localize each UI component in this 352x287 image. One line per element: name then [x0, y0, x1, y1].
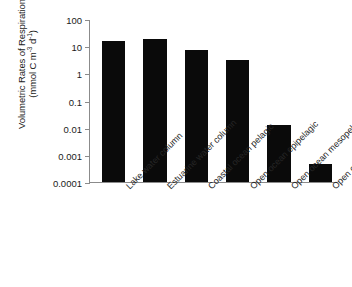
- y-tick-label: 100: [66, 15, 82, 26]
- respiration-bar-chart: Volumetric Rates of Respiration (mmol C …: [0, 0, 352, 287]
- y-tick-mark: [85, 102, 90, 103]
- bar: [102, 41, 125, 182]
- y-axis-units-exponent-day: -1: [26, 33, 33, 39]
- y-axis-units-prefix: (mmol C m: [27, 52, 38, 98]
- y-axis-title-line2: (mmol C m-3 d-1): [28, 30, 39, 98]
- plot-area: 1001010.10.010.0010.0001: [89, 20, 337, 183]
- y-axis-title: Volumetric Rates of Respiration (mmol C …: [11, 0, 45, 154]
- x-tick-label: Estuarine water column: [165, 184, 172, 191]
- y-tick-label: 0.1: [69, 96, 82, 107]
- y-tick-mark: [85, 47, 90, 48]
- x-tick-label: Lake water column: [124, 184, 131, 191]
- y-tick-label: 10: [71, 42, 82, 53]
- y-tick-label: 0.01: [64, 123, 83, 134]
- y-tick-label: 0.001: [58, 150, 82, 161]
- x-tick-label: Open ocean mesopelagic: [289, 184, 296, 191]
- y-tick-mark: [85, 74, 90, 75]
- y-axis-units-mid: d: [27, 39, 38, 47]
- x-tick-label: Coastal ocean pelagic: [206, 184, 213, 191]
- y-tick-label: 1: [77, 69, 82, 80]
- x-tick-label: Open ocean epipelagic: [248, 184, 255, 191]
- plot-inner: 1001010.10.010.0010.0001: [89, 20, 337, 183]
- y-tick-mark: [85, 129, 90, 130]
- y-axis-units-exponent-volume: -3: [26, 47, 33, 53]
- x-tick-label: Open ocean bathypelagic: [330, 184, 337, 191]
- y-tick-mark: [85, 156, 90, 157]
- y-tick-mark: [85, 20, 90, 21]
- x-axis-tick-labels: Lake water columnEstuarine water columnC…: [89, 184, 337, 284]
- y-tick-label: 0.0001: [53, 178, 82, 189]
- y-axis-units-suffix: ): [27, 30, 38, 33]
